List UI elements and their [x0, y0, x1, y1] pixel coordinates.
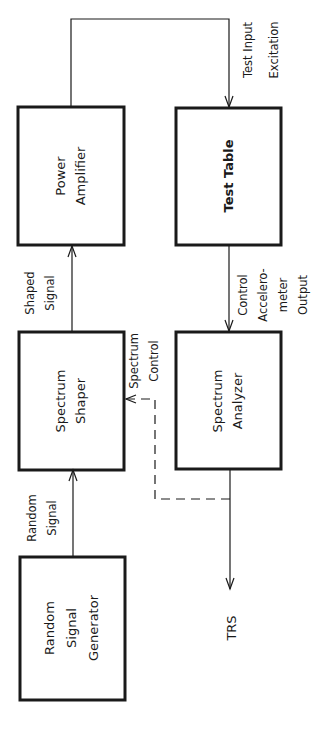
svg-text:meter: meter: [276, 277, 290, 312]
random-signal-edge-label: Random Signal: [25, 494, 59, 542]
block-diagram: Power Amplifier Test Table Spectrum Shap…: [0, 0, 323, 731]
svg-text:Test Table: Test Table: [221, 139, 236, 212]
shaped-signal-edge-label: Shaped Signal: [23, 271, 57, 314]
svg-text:Control: Control: [147, 340, 161, 382]
test-input-excitation-arrow: [71, 19, 233, 107]
svg-text:Spectrum: Spectrum: [210, 370, 225, 433]
random-signal-arrow: [69, 470, 77, 557]
power-amplifier-block: [18, 107, 124, 245]
trs-output-label: TRS: [224, 615, 239, 641]
svg-text:Spectrum: Spectrum: [127, 333, 141, 389]
svg-text:Excitation: Excitation: [267, 22, 281, 79]
svg-text:Random: Random: [42, 601, 57, 655]
svg-text:Random: Random: [25, 494, 39, 542]
test-input-excitation-edge-label: Test Input Excitation: [241, 21, 281, 79]
svg-text:Generator: Generator: [86, 594, 101, 661]
svg-text:Signal: Signal: [43, 275, 57, 310]
svg-text:Shaped: Shaped: [23, 271, 37, 314]
control-accelerometer-arrow: [225, 245, 233, 331]
test-table-label: Test Table: [221, 139, 236, 212]
svg-text:Amplifier: Amplifier: [73, 146, 88, 205]
shaped-signal-arrow: [68, 246, 76, 332]
svg-text:Spectrum: Spectrum: [53, 370, 68, 433]
control-accelerometer-edge-label: Control Accelero- meter Output: [236, 268, 310, 322]
svg-text:Analyzer: Analyzer: [230, 372, 245, 429]
svg-text:TRS: TRS: [224, 615, 239, 641]
svg-text:Signal: Signal: [64, 608, 79, 648]
spectrum-analyzer-block: [176, 332, 281, 469]
svg-text:Signal: Signal: [45, 500, 59, 535]
svg-text:Output: Output: [296, 275, 310, 315]
svg-text:Power: Power: [53, 156, 68, 196]
trs-output-arrow: [226, 469, 234, 589]
spectrum-control-edge-label: Spectrum Control: [127, 333, 161, 389]
svg-text:Shaper: Shaper: [73, 377, 88, 424]
svg-text:Test Input: Test Input: [241, 21, 255, 79]
spectrum-shaper-block: [19, 332, 124, 470]
svg-text:Control: Control: [236, 274, 250, 316]
svg-text:Accelero-: Accelero-: [256, 268, 270, 322]
